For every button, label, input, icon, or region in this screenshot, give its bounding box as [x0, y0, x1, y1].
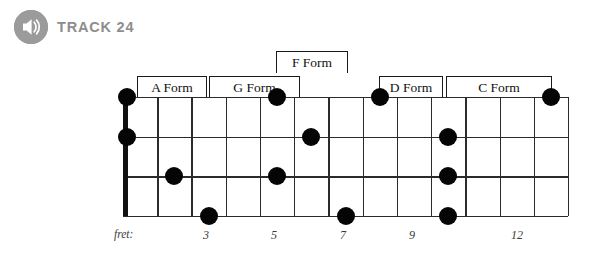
form-bracket-label: C Form [473, 81, 525, 95]
track-label: TRACK 24 [57, 19, 134, 35]
fret-axis-caption: fret: [114, 228, 133, 240]
note-dot [165, 167, 183, 185]
note-dot [542, 88, 560, 106]
form-bracket-f: F Form [276, 51, 348, 73]
fret-line [397, 97, 398, 216]
form-bracket-label: D Form [385, 81, 437, 95]
fret-line [500, 97, 501, 216]
form-bracket-c: C Form [446, 76, 552, 98]
fret-line [431, 97, 432, 216]
fret-line [157, 97, 158, 216]
string-line [123, 97, 568, 98]
fret-number: 7 [340, 228, 346, 243]
note-dot [118, 88, 136, 106]
note-dot [118, 128, 136, 146]
fret-line [465, 97, 466, 216]
note-dot [439, 207, 457, 225]
form-bracket-label: F Form [287, 56, 337, 70]
fret-number: 12 [511, 228, 523, 243]
note-dot [302, 128, 320, 146]
diagram-page: TRACK 24 A FormG FormF FormD FormC Form … [0, 0, 598, 256]
fret-line [226, 97, 227, 216]
fret-line [363, 97, 364, 216]
string-line [123, 137, 568, 138]
speaker-icon [14, 10, 48, 44]
nut [123, 97, 128, 216]
fret-number: 9 [409, 228, 415, 243]
note-dot [337, 207, 355, 225]
string-line [123, 176, 568, 177]
fret-line [260, 97, 261, 216]
fret-number: 5 [271, 228, 277, 243]
form-bracket-a: A Form [137, 76, 207, 98]
note-dot [371, 88, 389, 106]
track-header: TRACK 24 [14, 10, 134, 44]
note-dot [439, 167, 457, 185]
fret-line [534, 97, 535, 216]
note-dot [268, 88, 286, 106]
fret-number: 3 [203, 228, 209, 243]
fret-line [191, 97, 192, 216]
note-dot [200, 207, 218, 225]
note-dot [268, 167, 286, 185]
fret-line [568, 97, 569, 216]
fretboard-diagram [123, 97, 568, 216]
form-bracket-label: A Form [146, 81, 198, 95]
note-dot [439, 128, 457, 146]
form-bracket-g: G Form [209, 76, 300, 98]
fret-line [328, 97, 329, 216]
fret-line [294, 97, 295, 216]
